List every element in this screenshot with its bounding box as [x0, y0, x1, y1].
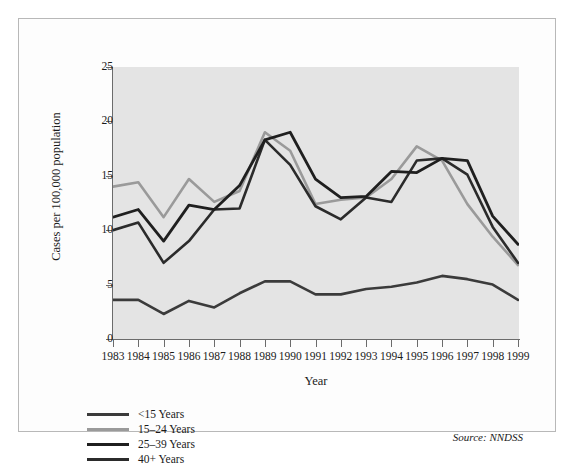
figure-frame: 0510152025 19831984198519861987198819891…	[18, 18, 556, 432]
y-axis-label: Cases per 100,000 population	[49, 87, 64, 287]
plot-lines	[113, 67, 519, 339]
x-tick-mark	[113, 340, 114, 347]
plot-area	[113, 67, 519, 339]
y-tick-label: 0	[87, 333, 113, 344]
x-axis-label: Year	[113, 374, 519, 389]
y-tick-label: 20	[87, 115, 113, 126]
legend-item[interactable]: 15–24 Years	[87, 422, 195, 437]
legend-item[interactable]: 40+ Years	[87, 452, 195, 467]
series-line	[113, 276, 518, 314]
y-tick-label: 5	[87, 279, 113, 290]
y-tick: 25	[69, 61, 113, 72]
x-tick-mark	[391, 340, 392, 347]
y-tick: 0	[69, 333, 113, 344]
y-tick: 15	[69, 170, 113, 181]
x-tick-label: 1999	[498, 350, 538, 363]
y-tick: 5	[69, 279, 113, 290]
x-tick-mark	[341, 340, 342, 347]
y-tick-label: 10	[87, 224, 113, 235]
y-tick-label: 15	[87, 170, 113, 181]
x-tick-mark	[214, 340, 215, 347]
legend-label: 25–39 Years	[138, 438, 195, 451]
series-line	[113, 132, 518, 265]
y-tick: 10	[69, 224, 113, 235]
x-tick-mark	[240, 340, 241, 347]
legend-item[interactable]: 25–39 Years	[87, 437, 195, 452]
legend-label: 15–24 Years	[138, 423, 195, 436]
x-tick-mark	[493, 340, 494, 347]
legend-label: <15 Years	[138, 408, 184, 421]
x-tick-mark	[290, 340, 291, 347]
legend: <15 Years15–24 Years25–39 Years40+ Years	[87, 407, 195, 467]
x-tick-mark	[518, 340, 519, 347]
x-tick-mark	[467, 340, 468, 347]
legend-swatch-icon	[87, 428, 129, 431]
x-tick-mark	[417, 340, 418, 347]
x-tick-mark	[442, 340, 443, 347]
x-tick-mark	[138, 340, 139, 347]
legend-swatch-icon	[87, 458, 129, 461]
x-tick-mark	[265, 340, 266, 347]
x-tick-mark	[366, 340, 367, 347]
y-axis-line	[112, 67, 113, 340]
legend-swatch-icon	[87, 443, 129, 446]
y-tick: 20	[69, 115, 113, 126]
legend-item[interactable]: <15 Years	[87, 407, 195, 422]
y-tick-label: 25	[87, 61, 113, 72]
legend-swatch-icon	[87, 413, 129, 416]
source-note: Source: NNDSS	[453, 431, 523, 443]
x-tick-mark	[316, 340, 317, 347]
legend-label: 40+ Years	[138, 453, 184, 466]
x-tick-mark	[189, 340, 190, 347]
x-tick-mark	[164, 340, 165, 347]
